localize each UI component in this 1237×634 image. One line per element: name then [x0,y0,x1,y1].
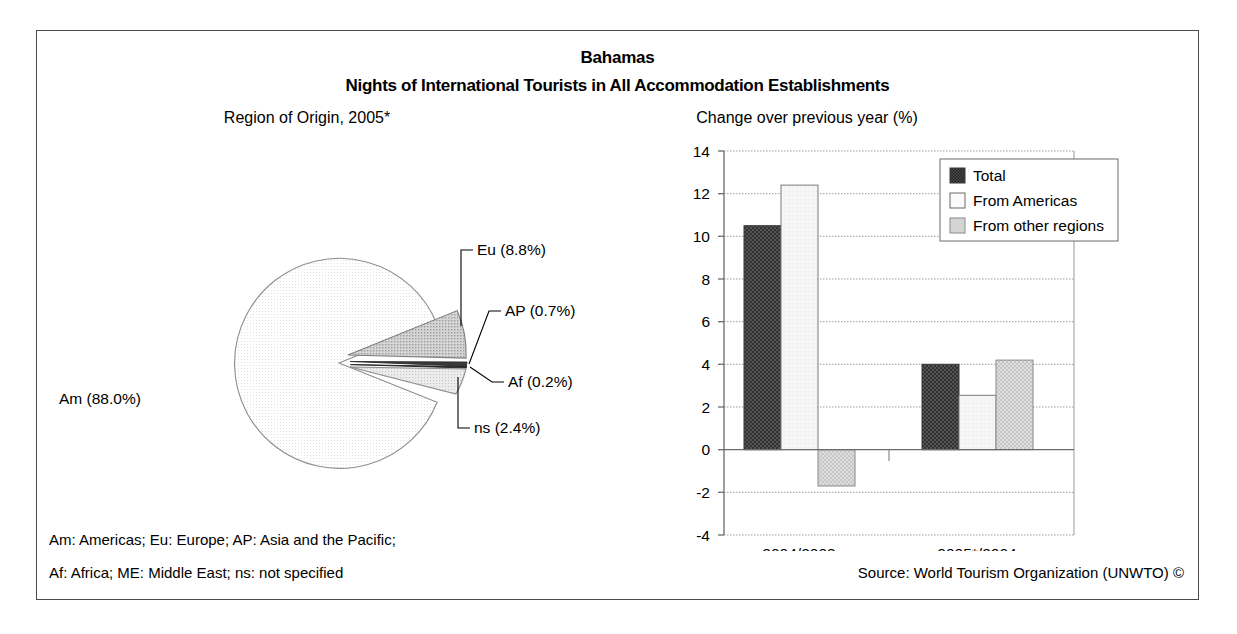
bar-chart-svg: 14 12 10 8 6 4 2 0 -2 -4 [632,131,1192,551]
pie-leader-ap [469,311,501,364]
bar-total-2004-2003 [744,226,781,450]
pie-label-am: Am (88.0%) [59,390,141,407]
footnote-abbreviations-line1: Am: Americas; Eu: Europe; AP: Asia and t… [49,531,396,548]
legend-label-total: Total [973,167,1006,184]
bar-other-2005-2004 [996,360,1033,450]
bar-chart-legend: Total From Americas From other regions [940,159,1118,241]
bar-chart-panel: 14 12 10 8 6 4 2 0 -2 -4 [632,131,1192,551]
legend-swatch-from-americas [950,193,965,208]
pie-label-af: Af (0.2%) [508,373,573,390]
chart-frame: Bahamas Nights of International Tourists… [36,30,1199,600]
pie-label-ns: ns (2.4%) [474,419,540,436]
y-tick-neg4: -4 [696,527,710,544]
bar-other-2004-2003 [818,450,855,486]
pie-label-eu: Eu (8.8%) [477,241,546,258]
y-tick-12: 12 [693,185,710,202]
page-title-subject: Nights of International Tourists in All … [37,76,1198,96]
pie-chart-svg: Eu (8.8%) AP (0.7%) Af (0.2%) ns (2.4%) … [37,131,637,511]
y-tick-4: 4 [701,356,710,373]
bar-americas-2005-2004 [959,395,996,449]
x-category-2004-2003: 2004/2003 [762,545,835,551]
y-tick-0: 0 [701,441,710,458]
pie-chart-panel: Eu (8.8%) AP (0.7%) Af (0.2%) ns (2.4%) … [37,131,637,511]
y-tick-neg2: -2 [696,484,710,501]
source-attribution: Source: World Tourism Organization (UNWT… [858,564,1184,581]
pie-leader-af [470,367,504,382]
chart-page: Bahamas Nights of International Tourists… [0,0,1237,634]
pie-label-ap: AP (0.7%) [505,302,575,319]
x-category-2005-2004: 2005*/2004 [937,545,1017,551]
page-title-country: Bahamas [37,48,1198,68]
bar-americas-2004-2003 [781,185,818,450]
y-tick-6: 6 [701,313,710,330]
y-tick-8: 8 [701,271,710,288]
legend-label-from-other-regions: From other regions [973,217,1104,234]
y-tick-2: 2 [701,399,710,416]
y-axis-ticks [718,151,724,535]
y-axis-tick-labels: 14 12 10 8 6 4 2 0 -2 -4 [693,143,711,544]
y-tick-14: 14 [693,143,711,160]
footnote-abbreviations-line2: Af: Africa; ME: Middle East; ns: not spe… [49,564,343,581]
y-tick-10: 10 [693,228,711,245]
legend-label-from-americas: From Americas [973,192,1077,209]
legend-swatch-total [950,168,965,183]
legend-swatch-from-other-regions [950,218,965,233]
pie-chart-title: Region of Origin, 2005* [97,109,517,127]
pie-leader-eu [461,250,473,326]
bar-total-2005-2004 [922,364,959,449]
bar-chart-title: Change over previous year (%) [597,109,1017,127]
